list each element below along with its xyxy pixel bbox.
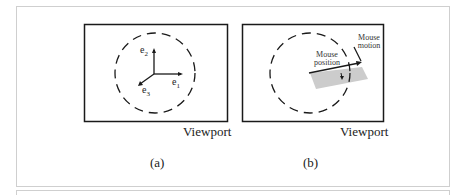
caption-a: (a) <box>150 155 164 171</box>
shaded-plane <box>310 67 368 89</box>
mouse-position-label: Mouse position <box>305 51 349 67</box>
panel-a-graphic <box>85 25 228 122</box>
arrow-e2-icon <box>152 48 156 53</box>
viewport-label-a: Viewport <box>183 124 231 140</box>
caption-b: (b) <box>303 155 318 171</box>
viewport-rect-a <box>85 25 228 122</box>
arcball-circle-a <box>115 33 195 113</box>
axis-label-e1: e1 <box>172 76 180 90</box>
viewport-label-b: Viewport <box>340 124 388 140</box>
diagram-canvas <box>0 0 466 195</box>
axis-label-e3: e3 <box>142 84 150 98</box>
mouse-position-arrow-icon <box>356 61 362 66</box>
mouse-motion-label: Mouse motion <box>352 34 386 50</box>
axis-label-e2: e2 <box>140 44 148 58</box>
